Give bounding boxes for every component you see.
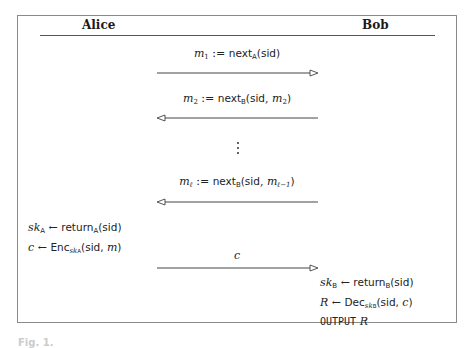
arrow-right-icon xyxy=(157,263,319,273)
arrow-left-icon xyxy=(157,113,319,123)
bob-step-2: R ← DecskB(sid, c) xyxy=(320,294,414,314)
message-c-label: c xyxy=(137,249,337,262)
alice-step-1: skA ← returnA(sid) xyxy=(28,219,121,239)
figure-caption: Fig. 1. xyxy=(18,337,53,348)
bob-steps: skB ← returnB(sid) R ← DecskB(sid, c) OU… xyxy=(320,274,414,330)
party-alice: Alice xyxy=(82,18,115,32)
alice-steps: skA ← returnA(sid) c ← EncskA(sid, m) xyxy=(28,219,121,259)
arrow-right-icon xyxy=(157,68,319,78)
arrow-left-2 xyxy=(157,113,319,123)
party-bob: Bob xyxy=(362,18,389,32)
alice-step-2: c ← EncskA(sid, m) xyxy=(28,239,121,259)
arrow-left-l xyxy=(157,197,319,207)
message-l-label: mℓ := nextB(sid, mℓ−1) xyxy=(137,175,337,189)
header-rule xyxy=(40,35,435,36)
bob-step-1: skB ← returnB(sid) xyxy=(320,274,414,294)
arrow-left-icon xyxy=(157,197,319,207)
arrow-right-c xyxy=(157,263,319,273)
message-1-label: m1 := nextA(sid) xyxy=(137,47,337,61)
arrow-right-1 xyxy=(157,68,319,78)
message-2-label: m2 := nextB(sid, m2) xyxy=(137,92,337,106)
bob-step-3: OUTPUT R xyxy=(320,314,414,330)
vertical-ellipsis xyxy=(236,142,240,157)
